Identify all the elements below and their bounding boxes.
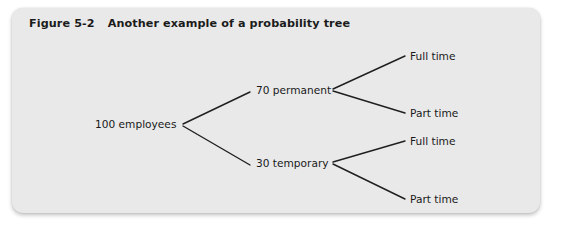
probability-tree-lines bbox=[0, 0, 564, 234]
edge-temporary-to-fulltime bbox=[333, 141, 405, 162]
tree-node-root: 100 employees bbox=[95, 119, 176, 130]
edge-permanent-to-parttime bbox=[333, 91, 405, 113]
edge-temporary-to-parttime bbox=[333, 164, 405, 199]
edge-root-to-temporary bbox=[183, 126, 250, 165]
tree-node-temporary: 30 temporary bbox=[256, 158, 329, 169]
figure-screenshot: Figure 5-2Another example of a probabili… bbox=[0, 0, 564, 234]
tree-node-permanent: 70 permanent bbox=[256, 85, 331, 96]
tree-leaf-temporary-part-time: Part time bbox=[410, 194, 458, 205]
tree-leaf-temporary-full-time: Full time bbox=[410, 136, 455, 147]
tree-leaf-permanent-full-time: Full time bbox=[410, 51, 455, 62]
edge-permanent-to-fulltime bbox=[333, 56, 405, 89]
tree-leaf-permanent-part-time: Part time bbox=[410, 108, 458, 119]
edge-root-to-permanent bbox=[183, 92, 250, 124]
